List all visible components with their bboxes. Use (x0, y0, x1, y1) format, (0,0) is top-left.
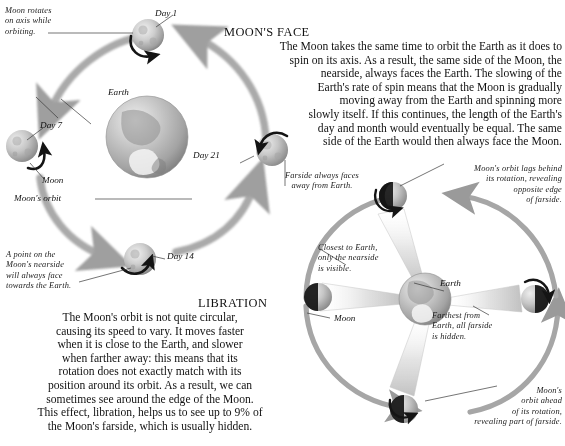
moons-face-line: side of the Earth would then always face… (222, 135, 562, 149)
libration-line: position around its orbit. As a result, … (0, 379, 300, 393)
label-earth-libration-diagram: Earth (440, 278, 461, 288)
annotation-farthest-from-earth: Farthest from Earth, all farside is hidd… (432, 311, 542, 342)
label-day-21: Day 21 (193, 150, 220, 160)
moons-face-line: slowly itself. If this continues, the le… (222, 108, 562, 122)
label-day-7: Day 7 (40, 120, 62, 130)
label-day-14: Day 14 (167, 251, 194, 261)
libration-line: causing its speed to vary. It moves fast… (0, 325, 300, 339)
moons-face-line: The Moon takes the same time to orbit th… (222, 40, 562, 54)
moons-face-line: Earth's rate of spin means that the Moon… (222, 81, 562, 95)
label-moon-libration-diagram: Moon (334, 313, 355, 323)
moons-face-paragraph: The Moon takes the same time to orbit th… (222, 40, 562, 149)
label-moon-orbit-diagram: Moon (42, 175, 63, 185)
annotation-farside-faces-away: Farside always faces away from Earth. (258, 171, 386, 192)
annotation-nearside-point: A point on the Moon's nearside will alwa… (6, 250, 126, 292)
libration-line: when it is close to the Earth, and slowe… (0, 338, 300, 352)
libration-heading: LIBRATION (198, 296, 267, 311)
label-moons-orbit: Moon's orbit (14, 193, 61, 203)
moons-face-line: spin on its axis. As a result, the same … (222, 54, 562, 68)
annotation-orbit-lags-behind: Moon's orbit lags behind its rotation, r… (430, 164, 562, 206)
libration-line: the Moon's farside, which is usually hid… (0, 420, 300, 434)
libration-line: This effect, libration, helps us to see … (0, 406, 300, 420)
moons-face-heading: MOON'S FACE (224, 25, 310, 40)
moons-face-line: day and month would eventually be equal.… (222, 122, 562, 136)
moons-face-line: moving away from the Earth and spinning … (222, 94, 562, 108)
libration-line: sometimes see around the edge of the Moo… (0, 393, 300, 407)
libration-line: rotation does not exactly match with its (0, 365, 300, 379)
libration-line: when farther away: this means that its (0, 352, 300, 366)
illustration-canvas: Moon rotates on axis while orbiting. A p… (0, 0, 565, 446)
label-day-1: Day 1 (155, 8, 177, 18)
annotation-moon-rotates: Moon rotates on axis while orbiting. (5, 6, 115, 37)
label-earth-orbit-diagram: Earth (108, 87, 129, 97)
moons-face-line: nearside, always faces the Earth. The sl… (222, 67, 562, 81)
libration-line: The Moon's orbit is not quite circular, (0, 311, 300, 325)
annotation-orbit-ahead: Moon's orbit ahead of its rotation, reve… (420, 386, 562, 428)
libration-paragraph: The Moon's orbit is not quite circular, … (0, 311, 300, 433)
annotation-closest-to-earth: Closest to Earth, only the nearside is v… (318, 243, 428, 274)
